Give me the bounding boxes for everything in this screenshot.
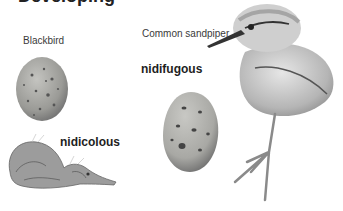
blackbird-egg-illustration	[14, 55, 70, 123]
nidicolous-hatchling-illustration	[2, 132, 120, 194]
label-blackbird: Blackbird	[23, 35, 64, 46]
label-nidifugous: nidifugous	[141, 62, 202, 76]
sandpiper-chick-illustration	[205, 2, 341, 202]
heading-cropped: Developing	[18, 0, 115, 7]
